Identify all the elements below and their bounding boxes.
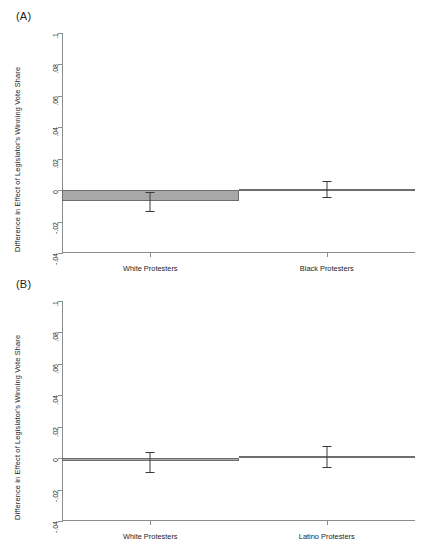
- panel-b-y-tick-label: .06: [52, 364, 60, 374]
- panel-a-y-tick-label-box: .06: [55, 96, 56, 97]
- panel-a-y-axis-title: Difference in Effect of Legislator's Win…: [13, 67, 22, 252]
- panel-a-x-tick: [327, 253, 328, 257]
- panel-b-y-tick-label-box: .1: [55, 301, 56, 302]
- panel-a-y-tick-label-box: 0: [55, 190, 56, 191]
- panel-a-y-tick-label-box: -.04: [55, 253, 56, 254]
- panel-b-x-tick-label: White Protesters: [123, 532, 178, 541]
- panel-b-y-tick-label-box: .02: [55, 427, 56, 428]
- panel-a-y-axis-line: [62, 33, 63, 254]
- panel-b: (B) Difference in Effect of Legislator's…: [0, 268, 421, 536]
- panel-a-x-tick: [150, 253, 151, 257]
- panel-a-y-tick-label: -.02: [52, 222, 60, 234]
- panel-a-y-tick-label: -.04: [52, 253, 60, 265]
- panel-a-y-tick-label-box: .04: [55, 127, 56, 128]
- panel-b-plot-area: -.04-.020.02.04.06.08.1White ProtestersL…: [62, 301, 415, 521]
- panel-b-y-tick-label-box: -.02: [55, 490, 56, 491]
- panel-b-y-tick-label-box: .04: [55, 395, 56, 396]
- panel-b-error-cap-upper: [322, 446, 331, 447]
- panel-b-error-bar: [150, 452, 151, 472]
- panel-b-error-cap-lower: [322, 467, 331, 468]
- panel-b-y-tick-label: 0: [52, 458, 60, 462]
- panel-b-y-tick-label: .02: [52, 427, 60, 437]
- panel-a-y-tick-label: .04: [52, 127, 60, 137]
- panel-a-x-axis-line: [62, 252, 415, 253]
- panel-b-y-tick-label: .08: [52, 332, 60, 342]
- panel-b-y-axis-title-wrap: Difference in Effect of Legislator's Win…: [2, 298, 18, 520]
- panel-a-error-bar: [326, 181, 327, 197]
- panel-a-error-cap-upper: [322, 181, 331, 182]
- panel-b-y-tick-label-box: -.04: [55, 521, 56, 522]
- panel-b-y-tick-label-box: 0: [55, 458, 56, 459]
- panel-a-y-tick-label-box: .02: [55, 159, 56, 160]
- panel-b-x-axis-line: [62, 520, 415, 521]
- panel-b-x-tick-label: Latino Protesters: [299, 532, 355, 541]
- panel-b-y-tick-label: -.02: [52, 490, 60, 502]
- panel-b-y-axis-title: Difference in Effect of Legislator's Win…: [13, 335, 22, 520]
- panel-b-x-tick: [150, 521, 151, 525]
- panel-a-y-tick-label: 0: [52, 190, 60, 194]
- panel-b-y-tick-label: .1: [52, 301, 60, 307]
- panel-a-error-cap-upper: [146, 192, 155, 193]
- panel-a-y-tick-label-box: .08: [55, 64, 56, 65]
- panel-b-error-cap-upper: [146, 452, 155, 453]
- panel-a-y-axis-title-wrap: Difference in Effect of Legislator's Win…: [2, 30, 18, 252]
- panel-a: (A) Difference in Effect of Legislator's…: [0, 0, 421, 268]
- panel-a-error-bar: [150, 192, 151, 211]
- panel-a-label: (A): [16, 10, 31, 22]
- panel-a-error-cap-lower: [146, 211, 155, 212]
- panel-b-y-axis-line: [62, 301, 63, 522]
- panel-b-error-cap-lower: [146, 472, 155, 473]
- panel-a-y-tick-label-box: -.02: [55, 222, 56, 223]
- panel-a-y-tick-label: .08: [52, 64, 60, 74]
- panel-b-error-bar: [326, 446, 327, 467]
- panel-a-y-tick-label: .02: [52, 159, 60, 169]
- panel-b-y-tick-label-box: .06: [55, 364, 56, 365]
- panel-a-y-tick-label: .1: [52, 33, 60, 39]
- panel-a-plot-area: -.04-.020.02.04.06.08.1White ProtestersB…: [62, 33, 415, 253]
- panel-b-x-tick: [327, 521, 328, 525]
- panel-b-y-tick-label-box: .08: [55, 332, 56, 333]
- panel-a-error-cap-lower: [322, 197, 331, 198]
- panel-b-y-tick-label: -.04: [52, 521, 60, 533]
- panel-b-y-tick-label: .04: [52, 395, 60, 405]
- panel-a-y-tick-label-box: .1: [55, 33, 56, 34]
- panel-a-y-tick-label: .06: [52, 96, 60, 106]
- panel-b-label: (B): [16, 278, 31, 290]
